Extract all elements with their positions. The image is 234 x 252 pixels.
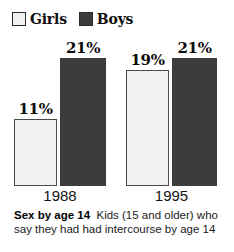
bar-value-boys-1995: 21% — [177, 40, 211, 56]
bar-girls-1995: 19% — [126, 70, 169, 186]
bar-value-boys-1988: 21% — [66, 40, 100, 56]
chart-caption: Sex by age 14 Kids (15 and older) who sa… — [14, 208, 222, 236]
bar-girls-1988: 11% — [14, 119, 57, 186]
plot-area: 11% 21% 19% 21% — [0, 0, 234, 186]
category-label-1988: 1988 — [14, 187, 106, 204]
bar-boys-1995: 21% — [172, 58, 217, 186]
caption-title: Sex by age 14 — [14, 209, 90, 221]
bar-value-girls-1988: 11% — [18, 101, 52, 117]
bar-boys-1988: 21% — [60, 58, 106, 186]
category-label-1995: 1995 — [126, 187, 217, 204]
bar-value-girls-1995: 19% — [130, 52, 164, 68]
chart-figure: Girls Boys 11% 21% 19% 21% 1988 1995 Sex… — [0, 0, 234, 252]
